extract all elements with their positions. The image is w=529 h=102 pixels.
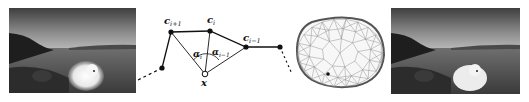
label-c-next: ci+1 xyxy=(164,15,182,28)
boundary-polygon xyxy=(162,31,280,68)
dashed-edge-right xyxy=(280,47,292,74)
label-c-prev: ci−1 xyxy=(243,32,261,45)
vertex-c-cur xyxy=(207,28,212,33)
vertex-c-prev xyxy=(243,44,248,49)
mesh-point xyxy=(326,72,330,76)
label-alpha-prev: αi−1 xyxy=(212,47,230,58)
label-alpha-i: αi xyxy=(193,49,202,60)
label-x: x xyxy=(200,77,208,88)
vertex-c-next xyxy=(168,29,173,34)
point-x xyxy=(202,71,208,77)
spoke-cur xyxy=(205,31,210,74)
dashed-edge-left xyxy=(138,68,162,80)
vertex-node xyxy=(277,44,282,49)
label-c-cur: ci xyxy=(207,14,215,27)
output-photo xyxy=(391,8,520,94)
triangulated-mesh xyxy=(297,17,384,87)
vertex-node xyxy=(159,65,164,70)
output-photo-art xyxy=(391,8,520,94)
